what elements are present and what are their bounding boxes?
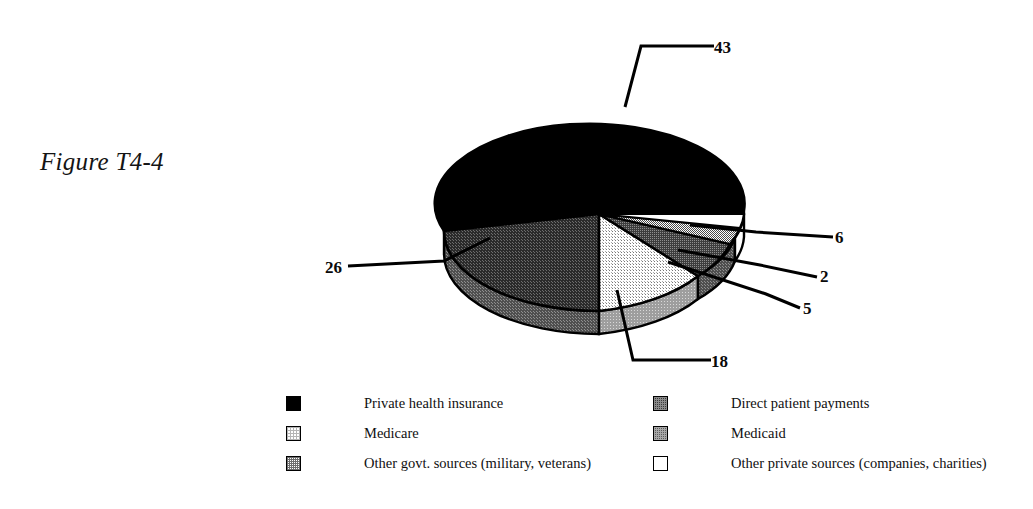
legend-swatch-light-gray-dither-icon xyxy=(286,426,301,441)
value-label-26: 26 xyxy=(325,258,342,278)
legend-row: Private health insurance Direct patient … xyxy=(286,388,1006,418)
legend-item-direct-patient-payments: Direct patient payments xyxy=(653,395,1003,412)
legend-label: Other govt. sources (military, veterans) xyxy=(301,455,591,472)
value-label-5: 5 xyxy=(803,299,812,319)
legend-label: Medicare xyxy=(301,425,419,442)
legend-label: Other private sources (companies, charit… xyxy=(668,455,987,472)
value-label-6: 6 xyxy=(835,228,844,248)
chart-legend: Private health insurance Direct patient … xyxy=(286,388,1006,478)
legend-swatch-white-icon xyxy=(653,456,668,471)
leader-line-43 xyxy=(625,46,714,107)
legend-item-medicare: Medicare xyxy=(286,425,653,442)
legend-swatch-black-icon xyxy=(286,396,301,411)
legend-item-other-private-sources: Other private sources (companies, charit… xyxy=(653,455,1003,472)
legend-item-medicaid: Medicaid xyxy=(653,425,1003,442)
legend-item-other-govt-sources: Other govt. sources (military, veterans) xyxy=(286,455,653,472)
legend-label: Direct patient payments xyxy=(668,395,870,412)
legend-label: Private health insurance xyxy=(301,395,503,412)
legend-label: Medicaid xyxy=(668,425,786,442)
legend-swatch-medium-dark-gray-dither-icon xyxy=(653,426,668,441)
legend-row: Other govt. sources (military, veterans)… xyxy=(286,448,1006,478)
value-label-18: 18 xyxy=(711,352,728,372)
value-label-2: 2 xyxy=(820,267,829,287)
legend-row: Medicare Medicaid xyxy=(286,418,1006,448)
legend-swatch-dark-gray-dither-icon xyxy=(653,396,668,411)
legend-item-private-health-insurance: Private health insurance xyxy=(286,395,653,412)
value-label-43: 43 xyxy=(714,38,731,58)
legend-swatch-medium-gray-dither-icon xyxy=(286,456,301,471)
